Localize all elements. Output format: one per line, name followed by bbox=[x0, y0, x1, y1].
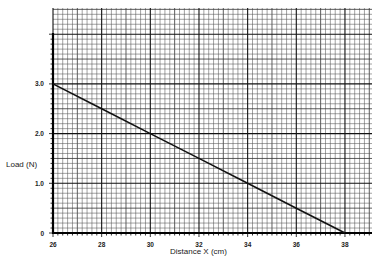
y-axis-label: Load (N) bbox=[6, 160, 37, 169]
grid-minor bbox=[53, 8, 372, 233]
y-tick-label: 0 bbox=[40, 230, 44, 237]
y-tick-label: 2.0 bbox=[35, 130, 44, 137]
x-tick-label: 28 bbox=[98, 241, 106, 248]
x-axis-label: Distance X (cm) bbox=[170, 247, 227, 256]
x-tick-label: 26 bbox=[49, 241, 57, 248]
grid-major bbox=[53, 8, 372, 233]
x-tick-label: 38 bbox=[341, 241, 349, 248]
x-tick-label: 34 bbox=[244, 241, 252, 248]
axes bbox=[49, 33, 372, 237]
x-tick-label: 36 bbox=[293, 241, 301, 248]
chart-canvas: 2628303234363801.02.03.0 bbox=[0, 0, 380, 266]
y-tick-label: 1.0 bbox=[35, 180, 44, 187]
x-tick-label: 30 bbox=[147, 241, 155, 248]
y-tick-label: 3.0 bbox=[35, 80, 44, 87]
